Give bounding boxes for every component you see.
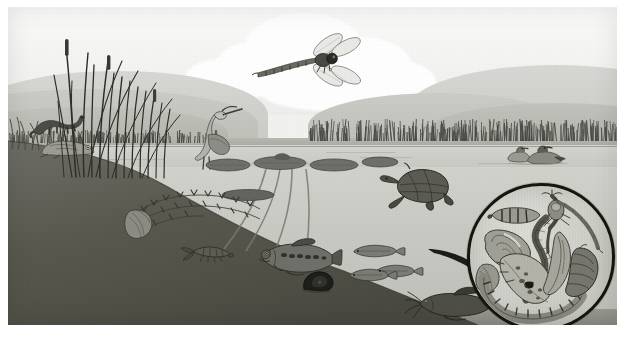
dragonfly [252,29,374,91]
pond-snail [300,265,340,293]
freshwater-mussel [120,207,156,241]
minnows [350,241,432,289]
illustration-plate [8,7,617,325]
water-beetle-larva-specimen [536,230,578,296]
illustration-canvas [0,0,625,349]
magnifier-inset [467,183,615,325]
inset-clip [470,186,612,325]
crayfish [180,239,234,263]
turtle [380,161,456,211]
ducks [502,143,568,167]
